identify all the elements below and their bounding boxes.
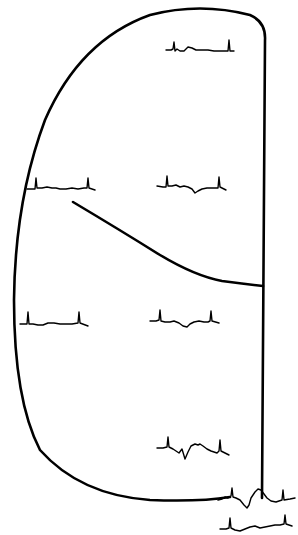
ecg-trace-top-right: [166, 40, 234, 51]
ecg-trace-bottom-lower: [220, 515, 292, 531]
heart-ecg-diagram: [0, 0, 298, 535]
ecg-trace-mid-left: [27, 178, 95, 190]
ecg-trace-lower-left: [20, 312, 88, 326]
ecg-trace-bottom-center: [157, 437, 229, 459]
diagram-svg: [0, 0, 298, 535]
ecg-trace-mid-right: [157, 176, 226, 193]
septal-divider-line: [73, 202, 263, 286]
heart-outline: [14, 9, 265, 501]
ecg-trace-lower-right: [150, 310, 219, 327]
